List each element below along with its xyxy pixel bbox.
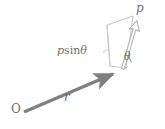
label-angle-theta: θ bbox=[124, 51, 131, 62]
label-psin-sin: sin bbox=[64, 44, 80, 57]
construction-line-left bbox=[107, 25, 110, 66]
label-origin-O: O bbox=[11, 103, 21, 115]
label-psin-theta: θ bbox=[80, 44, 87, 57]
vector-diagram-figure: O r p psinθ θ bbox=[0, 0, 165, 129]
psin-leader-line bbox=[103, 49, 109, 52]
label-psin-p: p bbox=[57, 44, 64, 57]
label-vector-p: p bbox=[136, 2, 144, 14]
label-vector-r: r bbox=[64, 91, 70, 103]
vector-diagram-canvas bbox=[0, 0, 165, 129]
label-p-sin-theta: psinθ bbox=[57, 45, 87, 56]
